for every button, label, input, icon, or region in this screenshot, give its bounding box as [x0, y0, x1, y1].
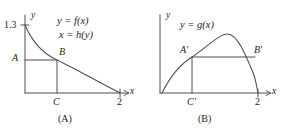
point-label-b: B: [59, 47, 65, 57]
panel-caption-b: (B): [198, 114, 211, 124]
equation-g-label: y = g(x): [180, 20, 214, 31]
figure-panel-b: y x y = g(x) 2 A' B' C' (B): [142, 0, 284, 135]
y-intercept-label-a: 1.3: [4, 20, 17, 30]
x-intercept-label-b: 2: [255, 97, 260, 107]
equation-h-label: x = h(y): [59, 30, 93, 41]
y-axis-label-b: y: [166, 11, 170, 21]
figure-container: y x 1.3 2 y = f(x) x = h(y) A B C (A): [0, 0, 284, 135]
x-axis-label-b: x: [272, 87, 276, 97]
point-label-b-prime: B': [254, 45, 262, 55]
point-label-c: C: [53, 97, 60, 107]
point-label-a: A: [12, 53, 18, 63]
y-axis-label-a: y: [31, 11, 35, 21]
x-intercept-label-a: 2: [117, 97, 122, 107]
x-axis-label-a: x: [130, 87, 134, 97]
point-label-a-prime: A': [180, 45, 188, 55]
point-label-c-prime: C': [187, 97, 196, 107]
equation-f-label: y = f(x): [57, 16, 89, 27]
panel-caption-a: (A): [58, 114, 72, 124]
figure-panel-a: y x 1.3 2 y = f(x) x = h(y) A B C (A): [0, 0, 142, 135]
curve-g-b: [162, 34, 258, 93]
